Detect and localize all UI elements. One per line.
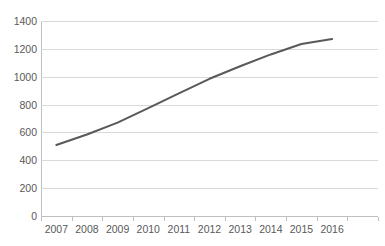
- x-tick-mark-1: [72, 217, 73, 221]
- y-axis-tick-labels: 0200400600800100012001400: [0, 21, 37, 216]
- y-tick-label-1200: 1200: [1, 44, 37, 55]
- x-tick-mark-2: [102, 217, 103, 221]
- x-tick-label-2007: 2007: [41, 222, 72, 240]
- x-tick-mark-8: [286, 217, 287, 221]
- x-tick-mark-6: [225, 217, 226, 221]
- y-tick-label-600: 600: [1, 127, 37, 138]
- series-line-series-1: [56, 39, 332, 145]
- y-tick-label-800: 800: [1, 99, 37, 110]
- x-tick-label-empty: [347, 222, 378, 240]
- x-tick-mark-0: [41, 217, 42, 221]
- y-tick-label-0: 0: [1, 211, 37, 222]
- x-tick-label-2016: 2016: [317, 222, 348, 240]
- x-axis-tick-labels: 2007200820092010201120122013201420152016: [41, 222, 378, 240]
- x-tick-label-2010: 2010: [133, 222, 164, 240]
- x-tick-mark-11: [378, 217, 379, 221]
- y-tick-label-400: 400: [1, 155, 37, 166]
- x-tick-mark-7: [255, 217, 256, 221]
- x-tick-label-2012: 2012: [194, 222, 225, 240]
- x-tick-mark-5: [194, 217, 195, 221]
- series-line-layer: [41, 21, 378, 216]
- x-tick-label-2009: 2009: [102, 222, 133, 240]
- plot-area: [41, 21, 378, 216]
- x-tick-mark-9: [317, 217, 318, 221]
- y-tick-label-1000: 1000: [1, 71, 37, 82]
- x-tick-label-2013: 2013: [225, 222, 256, 240]
- y-tick-label-200: 200: [1, 183, 37, 194]
- line-chart: 0200400600800100012001400 20072008200920…: [0, 0, 385, 246]
- x-tick-label-2011: 2011: [164, 222, 195, 240]
- x-tick-mark-3: [133, 217, 134, 221]
- x-tick-label-2008: 2008: [72, 222, 103, 240]
- x-tick-label-2015: 2015: [286, 222, 317, 240]
- x-tick-mark-10: [347, 217, 348, 221]
- x-tick-label-2014: 2014: [255, 222, 286, 240]
- y-tick-label-1400: 1400: [1, 16, 37, 27]
- x-tick-mark-4: [164, 217, 165, 221]
